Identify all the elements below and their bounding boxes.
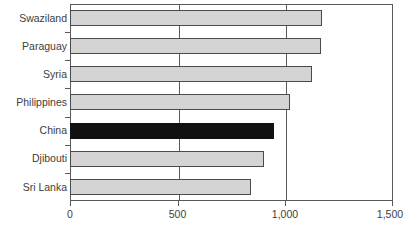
x-tick-1000 bbox=[285, 201, 286, 206]
y-label-china: China bbox=[0, 125, 67, 136]
x-label-0: 0 bbox=[67, 208, 73, 220]
bar-swaziland[interactable] bbox=[70, 10, 322, 26]
y-label-syria: Syria bbox=[0, 69, 67, 80]
bar-chart: Swaziland Paraguay Syria Philippines Chi… bbox=[0, 0, 413, 233]
y-axis-labels: Swaziland Paraguay Syria Philippines Chi… bbox=[0, 4, 67, 201]
x-tick-1500 bbox=[392, 201, 393, 206]
bar-syria[interactable] bbox=[70, 66, 312, 82]
x-label-1500: 1,500 bbox=[377, 208, 403, 220]
x-label-1000: 1,000 bbox=[272, 208, 298, 220]
y-label-djibouti: Djibouti bbox=[0, 153, 67, 164]
x-tick-0 bbox=[70, 201, 71, 206]
y-label-paraguay: Paraguay bbox=[0, 41, 67, 52]
bars-layer bbox=[70, 4, 393, 201]
y-label-sri-lanka: Sri Lanka bbox=[0, 182, 67, 193]
x-tick-500 bbox=[178, 201, 179, 206]
bar-sri-lanka[interactable] bbox=[70, 179, 251, 195]
x-label-500: 500 bbox=[169, 208, 187, 220]
y-label-swaziland: Swaziland bbox=[0, 13, 67, 24]
bar-paraguay[interactable] bbox=[70, 38, 321, 54]
bar-china[interactable] bbox=[70, 123, 274, 139]
y-label-philippines: Philippines bbox=[0, 97, 67, 108]
bar-djibouti[interactable] bbox=[70, 151, 264, 167]
bar-philippines[interactable] bbox=[70, 94, 290, 110]
